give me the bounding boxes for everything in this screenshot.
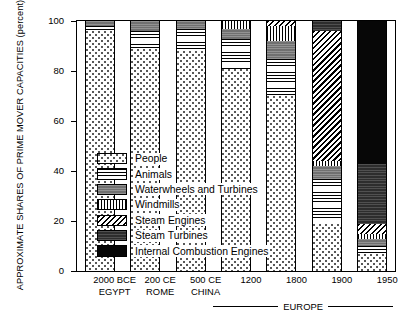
legend-swatch-icon [97, 245, 127, 256]
x-tick-label-secondary: CHINA [174, 286, 238, 298]
bracket-rule-left [213, 306, 278, 307]
legend-item: Animals [97, 166, 293, 181]
bar-segment [131, 21, 159, 31]
bar-segment [86, 21, 114, 26]
x-tick-label-primary: 1900 [331, 274, 352, 285]
y-tick-label: 20 [40, 215, 64, 226]
legend-item: Steam Turbines [97, 228, 293, 243]
legend-swatch-icon [97, 153, 127, 164]
stacked-bar-chart: APPROXIMATE SHARES OF PRIME MOVER CAPACI… [0, 0, 410, 316]
y-tick-label: 0 [40, 265, 64, 276]
y-tick-mark [71, 21, 77, 22]
bracket-rule-right [328, 306, 393, 307]
bar-segment [222, 29, 250, 39]
bar-segment [313, 161, 341, 166]
bar-segment [177, 29, 205, 52]
bar-segment [358, 234, 386, 239]
chart-legend: PeopleAnimalsWaterwheels and TurbinesWin… [97, 151, 293, 259]
x-tick-label-primary: 1200 [241, 274, 262, 285]
legend-label: Animals [134, 168, 173, 180]
legend-label: People [134, 153, 168, 165]
legend-swatch-icon [97, 215, 127, 226]
legend-swatch-icon [97, 230, 127, 241]
bar-1900 [312, 21, 342, 271]
legend-item: Steam Engines [97, 213, 293, 228]
x-axis-group-label: EUROPE [278, 301, 328, 312]
bar-segment [313, 21, 341, 31]
bar-segment [313, 166, 341, 179]
x-axis-group-bracket-europe: EUROPE [213, 300, 393, 312]
bar-segment [131, 31, 159, 49]
y-tick-mark [71, 221, 77, 222]
legend-label: Steam Engines [134, 214, 206, 226]
y-axis-title: APPROXIMATE SHARES OF PRIME MOVER CAPACI… [0, 0, 40, 290]
bar-segment [86, 26, 114, 31]
bar-segment [313, 179, 341, 224]
legend-swatch-icon [97, 168, 127, 179]
bar-segment [267, 21, 295, 26]
legend-item: Windmills [97, 197, 293, 212]
x-tick-label-primary: 200 CE [145, 274, 176, 285]
y-tick-label: 60 [40, 115, 64, 126]
legend-label: Windmills [134, 199, 180, 211]
y-tick-mark [71, 171, 77, 172]
legend-label: Steam Turbines [134, 230, 209, 242]
legend-label: Internal Combustion Engines [134, 245, 269, 257]
bar-segment [267, 59, 295, 97]
bar-segment [267, 26, 295, 41]
y-tick-label: 40 [40, 165, 64, 176]
y-tick-label: 80 [40, 65, 64, 76]
bar-segment [267, 41, 295, 59]
y-tick-mark [71, 271, 77, 272]
x-axis-labels: 2000 BCEEGYPT200 CEROME500 CECHINA120018… [76, 274, 396, 316]
legend-item: Waterwheels and Turbines [97, 182, 293, 197]
x-tick-label-primary: 500 CE [190, 274, 221, 285]
bar-segment [358, 239, 386, 247]
legend-label: Waterwheels and Turbines [134, 183, 259, 195]
x-tick-label-primary: 1800 [286, 274, 307, 285]
bar-segment [222, 39, 250, 69]
legend-item: People [97, 151, 293, 166]
y-tick-mark [71, 121, 77, 122]
legend-item: Internal Combustion Engines [97, 243, 293, 258]
bar-segment [358, 21, 386, 164]
bar-segment [177, 21, 205, 29]
y-axis-tick-labels: 020406080100 [38, 0, 64, 316]
y-tick-mark [71, 71, 77, 72]
legend-swatch-icon [97, 184, 127, 195]
bar-segment [222, 21, 250, 29]
bar-segment [313, 31, 341, 161]
y-axis-title-text: APPROXIMATE SHARES OF PRIME MOVER CAPACI… [14, 0, 27, 290]
bar-segment [358, 224, 386, 234]
y-tick-label: 100 [40, 15, 64, 26]
bar-segment [358, 164, 386, 224]
x-tick-label-primary: 1950 [377, 274, 398, 285]
bar-segment [313, 224, 341, 272]
x-tick-label: 1950 [355, 274, 410, 286]
bar-1950 [357, 21, 387, 271]
bar-segment [358, 246, 386, 254]
legend-swatch-icon [97, 199, 127, 210]
bar-segment [358, 254, 386, 272]
